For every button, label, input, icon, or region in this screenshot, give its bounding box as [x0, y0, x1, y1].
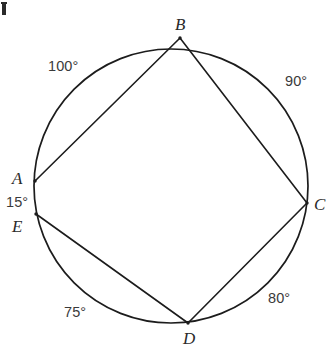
arc-measure-cd: 80°: [268, 291, 290, 306]
arc-measure-ea: 15°: [6, 195, 28, 210]
vertex-label-c: C: [314, 196, 326, 213]
vertex-label-d: D: [183, 330, 195, 347]
arc-measure-bc: 90°: [285, 74, 307, 89]
vertex-point-d: [186, 321, 189, 324]
vertex-label-e: E: [12, 218, 23, 235]
vertex-point-c: [305, 201, 308, 204]
circle-outline: [34, 49, 308, 323]
vertex-point-e: [34, 212, 37, 215]
chord-d-e: [36, 214, 188, 323]
vertex-point-b: [178, 36, 181, 39]
vertex-point-a: [33, 179, 36, 182]
arc-measure-de: 75°: [64, 305, 86, 320]
chord-b-c: [180, 38, 307, 203]
geometry-figure: A B C D E 100° 90° 80° 75° 15°: [0, 0, 332, 354]
vertex-label-a: A: [12, 170, 23, 187]
arc-measure-ab: 100°: [48, 59, 78, 74]
vertex-label-b: B: [175, 16, 186, 33]
